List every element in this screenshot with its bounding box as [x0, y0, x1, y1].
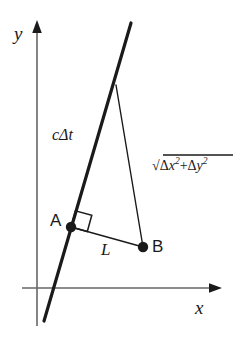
point-a-dot	[66, 222, 76, 232]
x-axis-label: x	[195, 298, 203, 317]
thick-line-c-delta-t	[44, 23, 131, 321]
y-axis-arrowhead-icon	[32, 20, 42, 33]
label-hypotenuse-expression: √Δx2+Δy2	[152, 157, 208, 173]
label-segment-l: L	[101, 241, 110, 258]
label-point-a: A	[50, 212, 61, 229]
thin-line-hypotenuse	[116, 85, 143, 247]
label-c-delta-t: cΔt	[52, 127, 73, 143]
y-axis	[32, 20, 42, 326]
physics-diagram: y x cΔt L A B √Δx2+Δy2	[0, 0, 241, 339]
label-point-b: B	[152, 238, 163, 255]
exponent-2: 2	[203, 156, 208, 166]
radical-sign-icon: √	[152, 158, 160, 173]
delta-symbol-1: Δ	[160, 158, 169, 173]
x-axis-arrowhead-icon	[209, 283, 222, 293]
delta-symbol-2: Δ	[188, 158, 197, 173]
point-b-dot	[138, 242, 148, 252]
plus-operator: +	[180, 158, 188, 173]
y-axis-label: y	[14, 24, 22, 43]
